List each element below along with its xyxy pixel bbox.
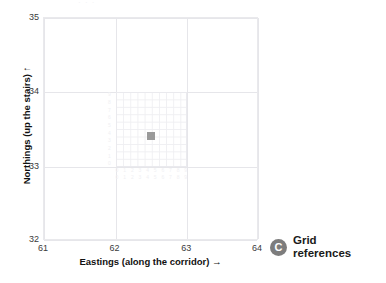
y-tick-text: 35 <box>29 12 39 22</box>
gridline-vertical-63 <box>187 18 188 239</box>
ruler-digit: 4 <box>108 131 111 136</box>
ruler-digit: 8 <box>108 100 111 105</box>
x-tick-label-61: 61 <box>38 243 48 253</box>
y-tick-label-33: 33 <box>39 161 49 171</box>
y-tick-label-35: 35 <box>39 12 49 22</box>
ruler-digit: 0 <box>108 161 111 166</box>
ruler-digit: 6 <box>108 115 111 120</box>
minor-grid-border <box>116 92 188 166</box>
gridline-horizontal-32 <box>44 240 257 241</box>
ruler-digit: 2 <box>131 168 134 173</box>
ruler-digit: 1 <box>123 168 126 173</box>
ruler-digit: 3 <box>139 175 142 180</box>
data-point-marker <box>147 132 155 140</box>
y-tick-text: 32 <box>29 234 39 244</box>
y-axis-label: Northings (up the stairs) ↑ <box>21 26 32 226</box>
ruler-digit: 0 <box>116 175 119 180</box>
gridline-vertical-61 <box>44 18 45 239</box>
minor-grid-ruler-left: 9 8 7 6 5 4 3 2 1 0 <box>108 92 111 166</box>
ruler-digit: 8 <box>177 168 180 173</box>
ruler-digit: 2 <box>108 146 111 151</box>
badge-letter-icon: C <box>270 239 287 256</box>
ruler-digit: 7 <box>169 168 172 173</box>
grid-references-badge: C Grid references <box>270 234 351 260</box>
ruler-digit: 0 <box>116 168 119 173</box>
minor-grid-ruler-bottom: 0 1 2 3 4 5 6 7 8 9 <box>116 168 188 173</box>
ruler-digit: 2 <box>131 175 134 180</box>
ruler-digit: 9 <box>184 175 187 180</box>
ruler-digit: 3 <box>139 168 142 173</box>
y-tick-label-32: 32 <box>39 234 49 244</box>
figure: · · · 0 1 2 3 4 5 6 7 8 9 0 1 <box>0 0 386 283</box>
badge-label-line2: references <box>293 247 351 259</box>
gridline-horizontal-35 <box>44 18 257 19</box>
ruler-digit: 4 <box>146 175 149 180</box>
ruler-digit: 7 <box>108 108 111 113</box>
x-tick-label-62: 62 <box>110 243 120 253</box>
ruler-digit: 9 <box>184 168 187 173</box>
ruler-digit: 6 <box>161 175 164 180</box>
ruler-digit: 5 <box>154 175 157 180</box>
ruler-digit: 3 <box>108 138 111 143</box>
ruler-digit: 7 <box>169 175 172 180</box>
gridline-vertical-64 <box>258 18 259 239</box>
badge-label-line1: Grid <box>293 234 317 246</box>
badge-label: Grid references <box>293 234 351 260</box>
ruler-digit: 8 <box>177 175 180 180</box>
ruler-digit: 5 <box>108 123 111 128</box>
ruler-digit: 6 <box>161 168 164 173</box>
ruler-digit: 1 <box>108 154 111 159</box>
y-tick-label-34: 34 <box>39 86 49 96</box>
x-tick-label-63: 63 <box>181 243 191 253</box>
x-axis-label: Eastings (along the corridor) → <box>43 256 258 267</box>
ruler-digit: 5 <box>154 168 157 173</box>
ruler-digit: 9 <box>108 92 111 97</box>
plot-area: 0 1 2 3 4 5 6 7 8 9 0 1 2 3 4 5 6 7 8 9 … <box>43 17 258 240</box>
ruler-digit: 1 <box>123 175 126 180</box>
minor-grid-ruler-bottom-secondary: 0 1 2 3 4 5 6 7 8 9 <box>116 175 188 180</box>
ruler-digit: 4 <box>146 168 149 173</box>
clipped-title: · · · <box>78 0 278 7</box>
x-tick-label-64: 64 <box>252 243 262 253</box>
